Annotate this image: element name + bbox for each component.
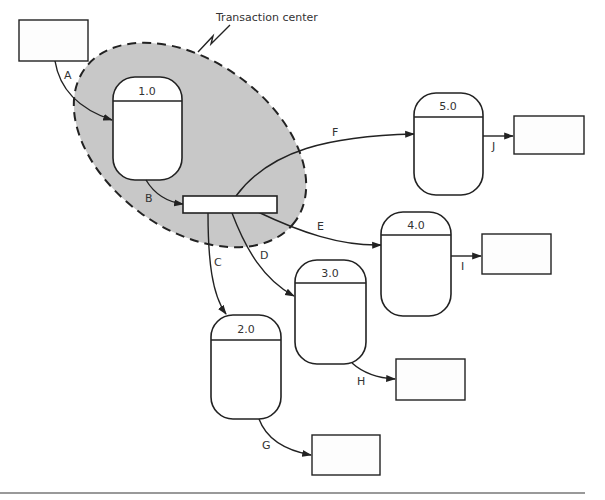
- external-entity-sink-h[interactable]: [396, 359, 465, 400]
- process-4-0[interactable]: 4.0: [381, 212, 451, 316]
- flow-h-label: H: [357, 375, 365, 388]
- process-3-0-label: 3.0: [321, 267, 339, 280]
- flow-a-label: A: [64, 69, 72, 82]
- external-entity-sink-i[interactable]: [482, 234, 551, 274]
- process-1-0[interactable]: 1.0: [113, 77, 182, 180]
- process-5-0[interactable]: 5.0: [414, 93, 483, 195]
- flow-f-label: F: [332, 126, 338, 139]
- process-1-0-label: 1.0: [138, 85, 156, 98]
- process-2-0[interactable]: 2.0: [211, 315, 281, 419]
- external-entity-sink-j[interactable]: [514, 116, 584, 154]
- transaction-center-label: Transaction center: [215, 11, 318, 24]
- flow-g-label: G: [262, 439, 271, 452]
- external-entity-sink-g[interactable]: [312, 435, 380, 475]
- flow-b-label: B: [145, 192, 153, 205]
- process-4-0-label: 4.0: [407, 219, 425, 232]
- process-3-0[interactable]: 3.0: [295, 260, 366, 364]
- process-2-0-label: 2.0: [237, 323, 255, 336]
- flow-c-label: C: [214, 256, 222, 269]
- lightning-bolt-icon: [198, 25, 230, 52]
- data-flow-diagram: Transaction center A 1.0 B F E D C 5.0 J…: [0, 0, 605, 500]
- transaction-store[interactable]: [183, 196, 277, 213]
- transaction-center-callout: Transaction center: [198, 11, 318, 52]
- external-entity-source[interactable]: [19, 20, 88, 61]
- flow-d-label: D: [260, 249, 268, 262]
- flow-i-label: I: [461, 260, 464, 273]
- process-5-0-label: 5.0: [439, 100, 457, 113]
- flow-j-label: J: [491, 140, 495, 153]
- flow-e-label: E: [317, 220, 324, 233]
